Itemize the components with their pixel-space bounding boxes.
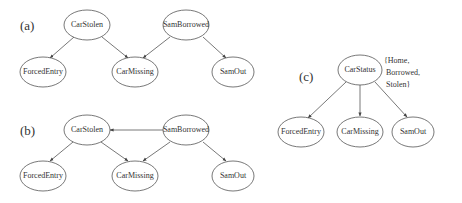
node-c-forced-entry: ForcedEntry bbox=[278, 117, 324, 147]
svg-text:ForcedEntry: ForcedEntry bbox=[281, 127, 321, 136]
node-a-forced-entry: ForcedEntry bbox=[20, 57, 66, 87]
node-b-car-missing: CarMissing bbox=[112, 161, 158, 191]
bayes-net-figure: (a) CarStolen SamBorrowed ForcedEntry Ca… bbox=[0, 0, 462, 203]
svg-text:CarMissing: CarMissing bbox=[116, 171, 153, 180]
svg-text:ForcedEntry: ForcedEntry bbox=[23, 171, 63, 180]
svg-text:CarStolen: CarStolen bbox=[71, 125, 103, 134]
panel-c-label: (c) bbox=[299, 69, 313, 84]
svg-text:SamBorrowed: SamBorrowed bbox=[163, 20, 209, 29]
node-b-sam-out: SamOut bbox=[212, 161, 254, 191]
panel-a: (a) CarStolen SamBorrowed ForcedEntry Ca… bbox=[20, 10, 254, 87]
edges-a bbox=[50, 37, 226, 58]
svg-text:SamBorrowed: SamBorrowed bbox=[163, 125, 209, 134]
svg-text:CarStolen: CarStolen bbox=[71, 20, 103, 29]
node-a-sam-out: SamOut bbox=[212, 57, 254, 87]
panel-b-label: (b) bbox=[20, 123, 35, 138]
node-c-car-missing: CarMissing bbox=[337, 117, 383, 147]
svg-text:SamOut: SamOut bbox=[400, 127, 427, 136]
node-b-sam-borrowed: SamBorrowed bbox=[163, 115, 209, 145]
panel-a-label: (a) bbox=[20, 18, 34, 33]
svg-text:ForcedEntry: ForcedEntry bbox=[23, 67, 63, 76]
svg-text:CarMissing: CarMissing bbox=[116, 67, 153, 76]
state-borrowed: Borrowed, bbox=[386, 68, 420, 77]
svg-text:SamOut: SamOut bbox=[220, 171, 247, 180]
node-c-sam-out: SamOut bbox=[392, 117, 434, 147]
node-a-sam-borrowed: SamBorrowed bbox=[163, 10, 209, 40]
state-home: {Home, bbox=[384, 56, 409, 65]
svg-text:CarStatus: CarStatus bbox=[344, 65, 375, 74]
node-b-car-stolen: CarStolen bbox=[64, 115, 110, 145]
panel-b: (b) CarStolen SamBorrowed ForcedEntry Ca… bbox=[20, 115, 254, 191]
node-c-car-status: CarStatus bbox=[338, 55, 382, 85]
state-stolen: Stolen} bbox=[386, 80, 410, 89]
svg-text:CarMissing: CarMissing bbox=[341, 127, 378, 136]
panel-c: (c) CarStatus {Home, Borrowed, Stolen} F… bbox=[278, 55, 434, 147]
node-a-car-stolen: CarStolen bbox=[64, 10, 110, 40]
node-b-forced-entry: ForcedEntry bbox=[20, 161, 66, 191]
node-a-car-missing: CarMissing bbox=[112, 57, 158, 87]
svg-text:SamOut: SamOut bbox=[220, 67, 247, 76]
